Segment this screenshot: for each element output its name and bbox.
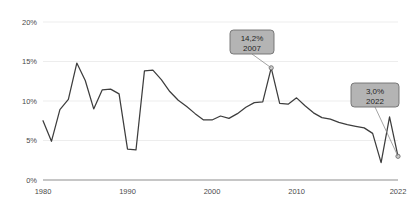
y-axis-tick-label: 5% <box>26 136 37 145</box>
data-series-group <box>43 63 398 163</box>
x-axis-tick-label: 2010 <box>288 187 305 196</box>
series-line-path <box>43 63 398 163</box>
callout-value-peak-2007: 14,2% <box>241 34 264 43</box>
callout-value-endpoint-2022: 3,0% <box>366 87 384 96</box>
x-axis-tick-label: 1990 <box>119 187 136 196</box>
y-axis-tick-label: 0% <box>26 176 37 185</box>
data-point-markers-group <box>269 66 400 159</box>
y-axis-tick-label: 20% <box>22 18 37 27</box>
y-axis-tick-label: 15% <box>22 57 37 66</box>
x-axis-tick-label: 1980 <box>35 187 52 196</box>
callout-year-endpoint-2022: 2022 <box>366 97 384 106</box>
y-axis-tick-labels: 20%15%10%5%0% <box>22 18 37 185</box>
callout-leader-endpoint-2022 <box>375 107 398 156</box>
line-chart: 20%15%10%5%0% 19801990200020102022 14,2%… <box>0 0 413 212</box>
x-axis-tick-label: 2022 <box>390 187 407 196</box>
callout-leader-peak-2007 <box>252 54 271 68</box>
x-axis-tick-labels: 19801990200020102022 <box>35 187 407 196</box>
chart-canvas: 20%15%10%5%0% 19801990200020102022 14,2%… <box>0 0 413 212</box>
gridlines-group <box>43 22 398 180</box>
y-axis-tick-label: 10% <box>22 97 37 106</box>
x-axis-tick-label: 2000 <box>204 187 221 196</box>
callout-year-peak-2007: 2007 <box>243 44 261 53</box>
